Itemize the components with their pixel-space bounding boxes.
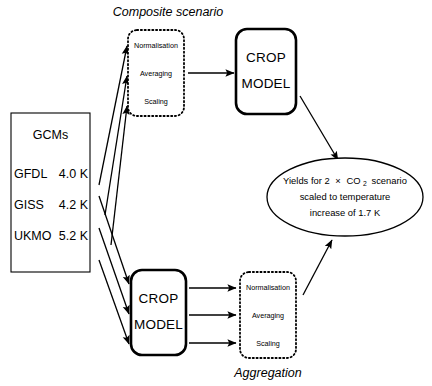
gcms-row-2-value: 5.2 K	[59, 229, 89, 243]
composite-stage-normalisation: Normalisation	[134, 41, 178, 50]
composite-stage-averaging: Averaging	[140, 69, 172, 78]
gcms-row-1-value: 4.2 K	[59, 198, 89, 212]
gcms-row-0-name: GFDL	[14, 167, 47, 181]
gcms-row-2-name: UKMO	[14, 229, 52, 243]
aggregation-stage-normalisation: Normalisation	[246, 283, 290, 292]
aggregation-caption: Aggregation	[233, 366, 301, 380]
crop-model-top-line2: MODEL	[241, 76, 290, 91]
crop-model-bottom-box	[131, 270, 186, 355]
arrow-cropmodel-to-result	[300, 96, 338, 160]
crop-model-bottom-line2: MODEL	[134, 317, 183, 332]
gcms-row-0-value: 4.0 K	[59, 167, 89, 181]
arrow-aggregation-to-result	[303, 240, 332, 295]
result-line-2: scaled to temperature	[300, 191, 391, 202]
result-line-3: increase of 1.7 K	[310, 207, 381, 218]
result-line-1-prefix: Yields for 2	[283, 175, 330, 186]
result-line-1-suffix: scenario	[371, 175, 406, 186]
result-line-1-times: ×	[335, 175, 340, 186]
gcms-heading: GCMs	[33, 128, 68, 142]
flowchart-diagram: Composite scenario GCMs GFDL 4.0 K GISS …	[0, 0, 432, 386]
flowchart-canvas: Composite scenario GCMs GFDL 4.0 K GISS …	[0, 0, 432, 386]
aggregation-stage-averaging: Averaging	[252, 311, 284, 320]
aggregation-stage-scaling: Scaling	[256, 339, 280, 348]
result-line-1-co: CO	[346, 175, 360, 186]
composite-scenario-caption: Composite scenario	[113, 5, 224, 19]
arrow-gcms-to-composite-2	[105, 76, 127, 215]
crop-model-bottom-line1: CROP	[139, 291, 179, 306]
crop-model-top-box	[236, 29, 296, 114]
gcms-row-1-name: GISS	[14, 198, 44, 212]
crop-model-top-line1: CROP	[246, 50, 286, 65]
composite-stage-scaling: Scaling	[144, 97, 168, 106]
result-line-1-subscript: 2	[363, 180, 367, 187]
